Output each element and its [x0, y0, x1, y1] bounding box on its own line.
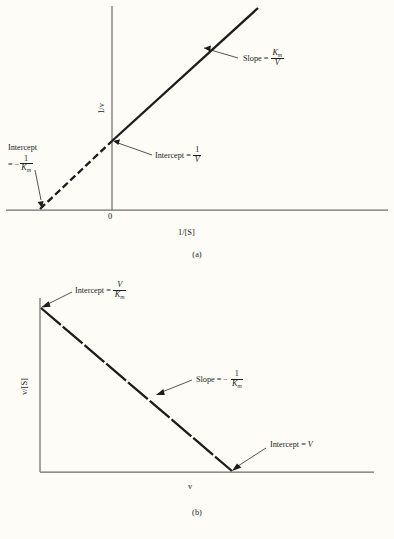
panel-a-intercept-x-prefix: = − [8, 160, 19, 169]
panel-a-intercept-y-leader [118, 143, 152, 155]
panel-b: Intercept = VKm Slope = − 1Km Intercept … [0, 270, 394, 539]
panel-a: Slope = KmV Intercept = 1V Intercept = −… [0, 0, 394, 270]
panel-b-intercept-y-denominator-sub: m [120, 293, 124, 299]
panel-b-x-axis-label: v [188, 482, 192, 491]
panel-b-intercept-x-annotation: Intercept = V [270, 440, 313, 450]
panel-b-y-axis-label: v/[S] [20, 378, 29, 395]
panel-a-slope-annotation: Slope = KmV [243, 49, 284, 67]
panel-a-intercept-x-annotation: Intercept = −1Km [8, 143, 37, 173]
panel-a-y-axis-label-text: 1/v [97, 103, 106, 114]
panel-a-line-solid [112, 8, 258, 141]
panel-b-intercept-y-leader [48, 292, 72, 304]
panel-a-intercept-x-line2: = −1Km [8, 155, 37, 173]
panel-b-caption: (b) [0, 508, 394, 517]
panel-b-slope-annotation: Slope = − 1Km [196, 370, 244, 388]
panel-a-slope-prefix: Slope = [243, 54, 270, 63]
panel-b-intercept-x-prefix: Intercept = [270, 440, 308, 449]
panel-b-intercept-y-fraction: VKm [113, 281, 126, 299]
panel-a-intercept-y-prefix: Intercept = [155, 151, 193, 160]
panel-b-intercept-y-annotation: Intercept = VKm [75, 281, 127, 299]
panel-a-caption: (a) [0, 250, 394, 259]
panel-a-origin-tick-label: 0 [108, 212, 112, 221]
figure-page: Slope = KmV Intercept = 1V Intercept = −… [0, 0, 394, 539]
panel-a-x-axis-label: 1/[S] [178, 228, 195, 237]
panel-a-slope-arrowhead [204, 45, 211, 51]
panel-b-plot [0, 270, 394, 539]
panel-b-slope-fraction: 1Km [231, 370, 244, 388]
panel-a-intercept-x-leader [35, 170, 41, 200]
panel-a-line-extrapolated [40, 141, 112, 209]
panel-b-x-axis-label-text: v [188, 482, 192, 491]
panel-a-plot [0, 0, 394, 270]
panel-a-y-axis-label: 1/v [97, 103, 106, 114]
panel-a-intercept-y-annotation: Intercept = 1V [155, 146, 202, 164]
panel-b-slope-arrowhead [156, 389, 165, 395]
panel-a-intercept-x-line1: Intercept [8, 143, 37, 153]
panel-a-intercept-x-denominator-sub: m [27, 167, 31, 173]
panel-b-intercept-x-leader [238, 448, 266, 466]
panel-b-line [41, 308, 232, 471]
panel-a-intercept-y-fraction: 1V [193, 146, 201, 164]
panel-b-slope-denominator-sub: m [238, 382, 242, 388]
panel-a-slope-denominator: V [271, 59, 284, 68]
panel-a-slope-fraction: KmV [271, 49, 284, 67]
panel-a-intercept-x-fraction: 1Km [20, 155, 33, 173]
panel-b-slope-prefix: Slope = − [196, 375, 230, 384]
panel-b-intercept-y-arrowhead [41, 301, 51, 307]
panel-a-slope-numerator-sub: m [278, 52, 282, 58]
page-edge-artifact [0, 531, 394, 539]
panel-b-slope-leader [162, 380, 192, 392]
panel-b-intercept-x-value: V [308, 440, 313, 449]
panel-a-intercept-y-denominator: V [193, 156, 201, 165]
panel-b-y-axis-label-text: v/[S] [20, 378, 29, 395]
panel-b-intercept-y-prefix: Intercept = [75, 286, 113, 295]
